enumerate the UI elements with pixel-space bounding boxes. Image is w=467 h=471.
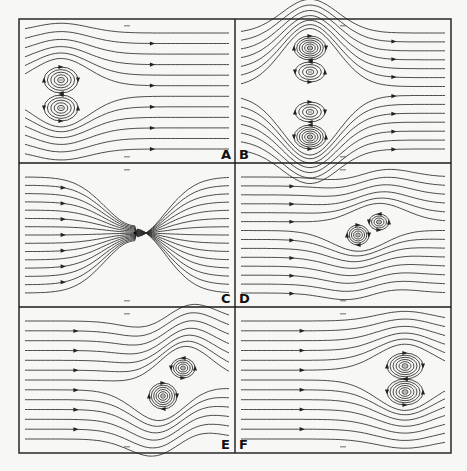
flow-arrow-icon: [385, 363, 389, 368]
flow-arrow-icon: [150, 147, 155, 151]
flow-arrow-icon: [385, 389, 389, 394]
streamline: [25, 59, 229, 86]
vortex-4: [292, 123, 328, 151]
tiny-annotation-top: [124, 313, 130, 315]
tiny-annotation-bottom: [124, 446, 130, 448]
flow-arrow-icon: [307, 34, 312, 38]
flow-arrow-icon: [402, 351, 407, 355]
flow-arrow-icon: [391, 112, 396, 116]
tiny-annotation-bottom: [340, 446, 346, 448]
vortex-2: [42, 93, 80, 123]
vortex-label-mark: [308, 71, 312, 72]
vortex-label-mark: [403, 391, 407, 392]
flow-arrow-icon: [76, 77, 80, 82]
streamline: [25, 231, 229, 260]
streamline: [241, 265, 445, 276]
panel-label: A: [221, 147, 231, 162]
flow-arrow-icon: [169, 365, 173, 370]
streamline: [25, 424, 229, 448]
panel-b: B: [239, 0, 445, 183]
streamline: [241, 5, 445, 42]
vortex-label-mark: [377, 221, 381, 222]
streamline: [25, 47, 229, 65]
flow-arrow-icon: [61, 249, 66, 253]
figure-frame: [19, 19, 451, 453]
vortex-label-mark: [356, 234, 360, 235]
flow-arrow-icon: [292, 45, 296, 50]
flow-arrow-icon: [307, 123, 312, 127]
flow-arrow-icon: [307, 147, 312, 151]
flow-arrow-icon: [61, 280, 66, 284]
flow-arrow-icon: [300, 427, 305, 431]
tiny-annotation-top: [124, 25, 130, 27]
tiny-annotation-bottom: [340, 300, 346, 302]
streamline: [241, 16, 445, 60]
streamline: [25, 321, 229, 345]
streamline: [25, 346, 229, 381]
streamline: [241, 149, 445, 184]
panel-a: A: [25, 23, 231, 162]
tiny-annotation-bottom: [124, 156, 130, 158]
flow-arrow-icon: [355, 243, 360, 247]
flow-arrow-icon: [293, 109, 297, 114]
flow-arrow-icon: [307, 100, 312, 104]
flow-arrow-icon: [292, 134, 296, 139]
flow-arrow-icon: [300, 329, 305, 333]
streamline: [241, 192, 445, 205]
flow-arrow-icon: [61, 201, 66, 205]
panel-label: B: [239, 147, 249, 162]
vortex-label-mark: [308, 136, 312, 137]
vortex-2: [169, 356, 197, 380]
streamline: [25, 53, 229, 75]
vortex-1: [292, 34, 328, 62]
flow-arrow-icon: [323, 69, 327, 74]
flow-arrow-icon: [391, 75, 396, 79]
panel-c: C: [25, 169, 231, 306]
flow-arrow-icon: [61, 217, 66, 221]
flow-arrow-icon: [324, 134, 328, 139]
flow-arrow-icon: [421, 389, 425, 394]
flow-arrow-icon: [73, 349, 78, 353]
streamline: [25, 398, 229, 427]
vortex-label-mark: [403, 365, 407, 366]
flow-arrow-icon: [300, 407, 305, 411]
flow-arrow-icon: [160, 381, 165, 385]
streamline: [25, 415, 229, 440]
flow-arrow-icon: [58, 65, 63, 69]
flow-arrow-icon: [300, 368, 305, 372]
flow-arrow-icon: [150, 126, 155, 130]
vortex-1: [385, 351, 425, 381]
vortex-2: [385, 377, 425, 407]
streamline: [241, 380, 445, 410]
streamline: [25, 149, 229, 160]
flow-arrow-icon: [73, 388, 78, 392]
flow-arrow-icon: [150, 84, 155, 88]
flow-arrow-icon: [193, 365, 197, 370]
vortex-2: [367, 212, 391, 232]
flow-arrow-icon: [367, 232, 371, 237]
flow-arrow-icon: [307, 80, 312, 84]
flow-arrow-icon: [61, 233, 66, 237]
panel-e: E: [25, 304, 230, 456]
vortex-1: [345, 223, 371, 247]
streamline: [25, 341, 229, 372]
vortex-1: [147, 381, 179, 411]
flow-arrow-icon: [61, 264, 66, 268]
flow-arrow-icon: [391, 147, 396, 151]
vortex-label-mark: [181, 367, 185, 368]
flow-arrow-icon: [391, 94, 396, 98]
flow-arrow-icon: [73, 329, 78, 333]
flow-arrow-icon: [289, 220, 294, 224]
flow-arrow-icon: [367, 219, 371, 224]
flow-arrow-icon: [73, 408, 78, 412]
flow-arrow-icon: [355, 223, 360, 227]
vortex-1: [42, 65, 80, 95]
vortex-label-mark: [59, 79, 63, 80]
streamline: [241, 198, 445, 213]
flow-arrow-icon: [376, 212, 381, 216]
flow-arrow-icon: [61, 186, 66, 190]
vortex-label-mark: [308, 47, 312, 48]
flow-arrow-icon: [345, 232, 349, 237]
streamline: [25, 313, 229, 336]
streamline: [241, 122, 445, 167]
